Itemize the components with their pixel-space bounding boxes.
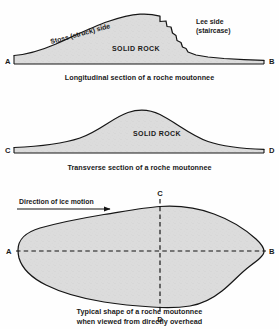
transverse-solid-rock-label: SOLID ROCK <box>133 130 181 137</box>
longitudinal-label-b: B <box>269 57 275 66</box>
roche-moutonnee-figure: A B SOLID ROCK Stoss (struck) side Lee s… <box>0 0 279 329</box>
plan-label-c: C <box>157 189 163 198</box>
diagram-canvas: A B SOLID ROCK Stoss (struck) side Lee s… <box>0 0 279 329</box>
ice-direction-label: Direction of ice motion <box>19 198 94 205</box>
plan-view-panel: Direction of ice motion A B C D Typical … <box>6 189 275 326</box>
plan-caption-line2: when viewed from directly overhead <box>76 317 203 326</box>
transverse-section-panel: C D SOLID ROCK Transverse section of a r… <box>5 110 275 172</box>
lee-side-label-line1: Lee side <box>196 18 224 25</box>
transverse-label-c: C <box>5 146 11 155</box>
plan-label-a: A <box>6 247 12 256</box>
longitudinal-label-a: A <box>5 57 11 66</box>
transverse-caption: Transverse section of a roche moutonnee <box>67 163 211 172</box>
longitudinal-section-panel: A B SOLID ROCK Stoss (struck) side Lee s… <box>5 14 275 82</box>
plan-rock-outline <box>18 206 264 307</box>
longitudinal-caption: Longitudinal section of a roche moutonne… <box>65 73 214 82</box>
plan-label-b: B <box>269 247 275 256</box>
longitudinal-solid-rock-label: SOLID ROCK <box>112 45 160 52</box>
transverse-label-d: D <box>269 146 275 155</box>
lee-side-label-line2: (staircase) <box>196 27 230 35</box>
plan-caption-line1: Typical shape of a roche moutonnee <box>77 307 203 316</box>
